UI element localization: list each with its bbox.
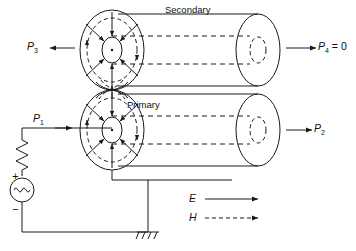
primary-return-tap: [112, 170, 232, 180]
primary-conductor-center-dot: [111, 129, 113, 131]
source-minus-label: −: [12, 203, 18, 215]
legend-h-label: H: [189, 211, 197, 223]
sine-wave-glyph: [14, 188, 30, 192]
p2-subscript: 2: [321, 129, 325, 136]
secondary-conductor-center-dot: [111, 49, 113, 51]
secondary-inner-aperture: [250, 37, 266, 63]
port-p4-label: P4 = 0: [318, 40, 347, 54]
primary-label: Primary: [127, 99, 160, 110]
p1-symbol: P: [33, 112, 40, 124]
port-p2-label: P2: [314, 122, 325, 136]
p3-subscript: 3: [34, 47, 38, 54]
p1-subscript: 1: [40, 119, 44, 126]
return-wire: [22, 202, 148, 232]
p4-symbol: P: [318, 40, 325, 52]
input-wire: [22, 128, 112, 135]
diagram-graphics: [0, 0, 356, 251]
port-p1-label: P1: [33, 112, 44, 126]
figure-canvas: Secondary Primary P3 P4 = 0 P2 P1 + − E …: [0, 0, 356, 251]
secondary-cross-section: [80, 10, 144, 90]
p2-symbol: P: [314, 122, 321, 134]
source-plus-label: +: [12, 170, 18, 182]
primary-inner-aperture: [250, 117, 266, 143]
ground-symbol: [136, 232, 159, 239]
secondary-label: Secondary: [165, 4, 210, 15]
legend-e-label: E: [189, 192, 196, 204]
p3-symbol: P: [27, 40, 34, 52]
p4-value: = 0: [329, 40, 347, 52]
port-p3-label: P3: [27, 40, 38, 54]
